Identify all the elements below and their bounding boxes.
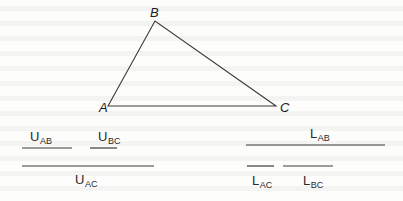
label-u-ab-main: U (30, 129, 39, 144)
label-u-bc-main: U (98, 129, 107, 144)
label-u-ac-sub: AC (85, 179, 98, 189)
label-l-bc-main: L (303, 173, 310, 188)
label-u-ab-sub: AB (40, 136, 52, 146)
label-l-ac-sub: AC (260, 180, 273, 190)
diagram-canvas: A B C UAB UBC UAC LAB LAC LBC (0, 0, 403, 201)
label-l-bc-sub: BC (311, 180, 324, 190)
vertex-label-c: C (280, 101, 289, 114)
triangle-diagram (0, 0, 403, 201)
label-l-bc: LBC (303, 174, 323, 187)
label-u-ac: UAC (75, 173, 97, 186)
label-u-bc: UBC (98, 130, 120, 143)
vertex-label-b: B (150, 6, 159, 19)
triangle-abc (108, 21, 276, 106)
vertex-label-a: A (99, 101, 108, 114)
label-u-ac-main: U (75, 172, 84, 187)
label-l-ab: LAB (310, 127, 330, 140)
label-l-ab-sub: AB (318, 133, 330, 143)
label-u-bc-sub: BC (108, 136, 121, 146)
label-l-ab-main: L (310, 126, 317, 141)
label-l-ac-main: L (252, 173, 259, 188)
label-u-ab: UAB (30, 130, 52, 143)
label-l-ac: LAC (252, 174, 272, 187)
